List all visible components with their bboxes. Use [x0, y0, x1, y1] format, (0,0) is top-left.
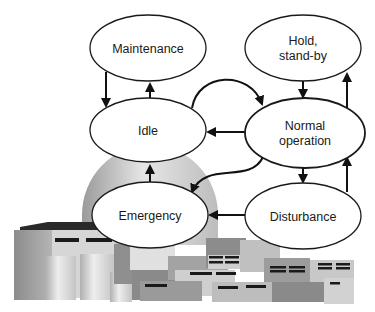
node-disturbance-label: Disturbance: [270, 210, 337, 224]
node-disturbance: Disturbance: [245, 183, 361, 249]
state-diagram: Maintenance Hold, stand-by Idle Normal o…: [0, 0, 375, 312]
node-normal-label-line2: operation: [279, 134, 331, 148]
node-emergency-label: Emergency: [118, 209, 182, 223]
node-normal-shape: [245, 98, 365, 168]
window: [190, 272, 212, 275]
window: [225, 261, 239, 264]
node-hold-standby: Hold, stand-by: [245, 15, 361, 81]
window: [209, 261, 223, 264]
window: [55, 238, 79, 242]
node-hold-shape: [245, 15, 361, 81]
window: [145, 284, 167, 287]
node-hold-label-line1: Hold,: [288, 34, 317, 48]
window: [216, 272, 236, 275]
window: [289, 266, 305, 269]
window: [270, 266, 286, 269]
window: [225, 256, 239, 259]
node-hold-label-line2: stand-by: [279, 49, 328, 63]
node-idle-label: Idle: [138, 124, 158, 138]
window: [209, 256, 223, 259]
window: [336, 263, 350, 266]
window: [86, 238, 112, 242]
window: [218, 286, 238, 289]
node-normal-operation: Normal operation: [245, 98, 365, 168]
node-normal-label-line1: Normal: [285, 119, 325, 133]
tank-2: [80, 254, 114, 300]
arrow-idle-to-normal: [192, 80, 262, 108]
window: [246, 285, 266, 288]
node-maintenance: Maintenance: [90, 15, 206, 81]
window: [318, 263, 332, 266]
window: [270, 270, 286, 273]
window: [336, 267, 350, 270]
window: [330, 282, 340, 285]
building-right: [324, 278, 354, 304]
tank-1: [46, 256, 76, 300]
window: [289, 270, 305, 273]
node-maintenance-label: Maintenance: [112, 42, 184, 56]
node-emergency: Emergency: [92, 182, 208, 248]
node-idle: Idle: [90, 98, 206, 162]
window: [318, 267, 332, 270]
